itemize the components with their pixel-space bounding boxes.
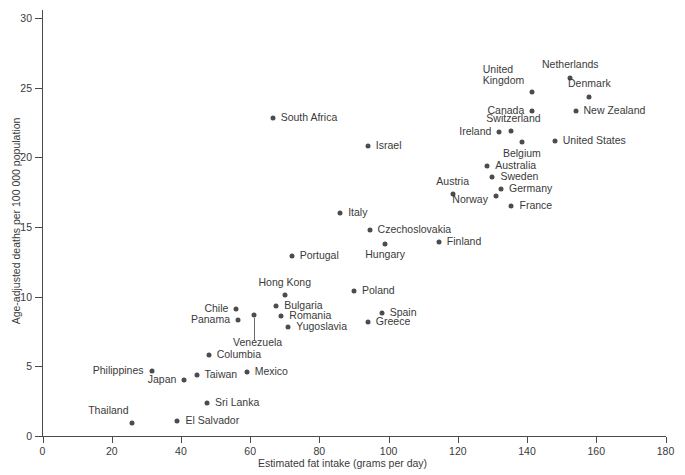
- x-tick-mark: [112, 437, 113, 443]
- data-point: [274, 304, 279, 309]
- data-point-label: France: [519, 200, 552, 212]
- data-point: [497, 130, 502, 135]
- data-point-label: Hungary: [365, 249, 405, 261]
- data-point: [552, 138, 557, 143]
- data-point: [149, 368, 154, 373]
- data-point: [490, 174, 495, 179]
- data-point-label: Greece: [376, 316, 410, 328]
- data-point-label: Sri Lanka: [215, 397, 259, 409]
- x-tick-mark: [596, 437, 597, 443]
- x-tick-mark: [458, 437, 459, 443]
- data-point-label: Switzerland: [486, 113, 540, 125]
- data-point-label: Finland: [447, 237, 481, 249]
- data-point-label: Italy: [348, 207, 367, 219]
- data-point-label: Austria: [436, 176, 469, 188]
- data-point-label: Portugal: [300, 251, 339, 263]
- data-point-label: South Africa: [281, 113, 338, 125]
- data-point: [130, 421, 135, 426]
- y-tick-mark: [35, 436, 42, 437]
- data-point: [436, 240, 441, 245]
- data-point: [286, 325, 291, 330]
- x-tick-label: 100: [380, 445, 398, 457]
- data-point-label: Japan: [148, 375, 177, 387]
- data-point: [509, 204, 514, 209]
- x-tick-mark: [181, 437, 182, 443]
- data-point-label: Columbia: [217, 349, 261, 361]
- data-point: [194, 372, 199, 377]
- data-point: [499, 187, 504, 192]
- scatter-plot-figure: 020406080100120140160180 051015202530 Ne…: [0, 0, 685, 475]
- data-point: [282, 293, 287, 298]
- data-point-label: Denmark: [568, 79, 611, 91]
- data-point: [175, 418, 180, 423]
- data-point: [365, 319, 370, 324]
- data-point-label: Czechoslovakia: [378, 224, 452, 236]
- data-point: [367, 227, 372, 232]
- data-point-label: El Salvador: [185, 415, 239, 427]
- data-point: [251, 312, 256, 317]
- data-point: [279, 314, 284, 319]
- x-tick-mark: [319, 437, 320, 443]
- data-point-label: Israel: [376, 140, 402, 152]
- data-point-label: Yugoslavia: [296, 322, 347, 334]
- x-tick-mark: [666, 437, 667, 443]
- data-point: [509, 128, 514, 133]
- y-axis-line: [42, 10, 43, 437]
- y-tick-label: 0: [12, 430, 32, 442]
- y-tick-mark: [35, 227, 42, 228]
- data-point: [270, 116, 275, 121]
- data-point: [352, 289, 357, 294]
- data-point: [234, 307, 239, 312]
- x-tick-label: 20: [106, 445, 118, 457]
- x-axis-title: Estimated fat intake (grams per day): [0, 457, 685, 469]
- data-point: [182, 378, 187, 383]
- x-axis-line: [42, 436, 666, 437]
- data-point-label: UnitedKingdom: [483, 63, 524, 86]
- data-point-label: Ireland: [459, 127, 491, 139]
- y-tick-mark: [35, 88, 42, 89]
- x-tick-mark: [527, 437, 528, 443]
- data-point: [530, 89, 535, 94]
- data-point-label: Thailand: [88, 406, 128, 418]
- data-point: [493, 194, 498, 199]
- data-point: [204, 400, 209, 405]
- x-tick-label: 60: [244, 445, 256, 457]
- data-point-label: Hong Kong: [258, 278, 311, 290]
- x-tick-mark: [43, 437, 44, 443]
- y-tick-mark: [35, 157, 42, 158]
- y-tick-mark: [35, 18, 42, 19]
- x-tick-label: 0: [40, 445, 46, 457]
- data-point-label: New Zealand: [584, 106, 646, 118]
- data-point-label: Poland: [362, 285, 395, 297]
- data-point-label: Taiwan: [205, 369, 238, 381]
- y-tick-mark: [35, 366, 42, 367]
- x-tick-label: 160: [588, 445, 606, 457]
- x-tick-mark: [389, 437, 390, 443]
- x-tick-label: 80: [314, 445, 326, 457]
- y-tick-mark: [35, 297, 42, 298]
- data-point: [338, 211, 343, 216]
- y-tick-label: 30: [12, 12, 32, 24]
- y-axis-title: Age-adjusted deaths per 100 000 populati…: [10, 71, 22, 371]
- x-tick-label: 180: [657, 445, 675, 457]
- data-point: [587, 95, 592, 100]
- data-point: [236, 318, 241, 323]
- data-point-label: Philippines: [93, 365, 144, 377]
- data-point-label: Norway: [452, 195, 488, 207]
- data-point: [519, 140, 524, 145]
- x-tick-label: 140: [518, 445, 536, 457]
- data-point-label: Netherlands: [542, 59, 599, 71]
- data-point: [206, 353, 211, 358]
- data-point: [383, 241, 388, 246]
- data-point: [244, 369, 249, 374]
- data-point-label: Venezuela: [233, 337, 282, 349]
- data-point: [365, 144, 370, 149]
- data-point: [573, 109, 578, 114]
- data-point: [289, 254, 294, 259]
- x-tick-label: 120: [449, 445, 467, 457]
- data-point-label: Mexico: [255, 366, 288, 378]
- data-point-label: Germany: [509, 184, 552, 196]
- x-tick-mark: [250, 437, 251, 443]
- x-tick-label: 40: [175, 445, 187, 457]
- data-point: [485, 163, 490, 168]
